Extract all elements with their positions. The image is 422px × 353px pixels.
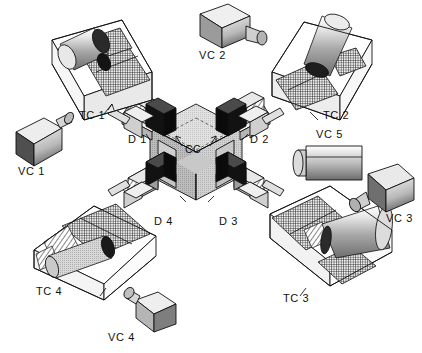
label-d-2: D 2: [250, 134, 269, 145]
diagram-canvas: TC 1 TC 2 TC 3 TC 4 D 1 D 2 D 3 D 4 CC V…: [0, 0, 422, 353]
label-tc-4: TC 4: [36, 286, 62, 297]
label-vc-2: VC 2: [199, 50, 226, 61]
label-d-1: D 1: [128, 134, 147, 145]
label-vc-4: VC 4: [108, 332, 135, 343]
label-d-4: D 4: [154, 216, 173, 227]
label-vc-1: VC 1: [18, 166, 45, 177]
target-chamber-2-shape: [272, 11, 372, 120]
label-tc-1: TC 1: [79, 110, 105, 121]
video-camera-5-shape: [293, 146, 362, 180]
label-tc-2: TC 2: [323, 110, 349, 121]
video-camera-1-shape: [16, 111, 75, 166]
label-cc: CC: [185, 144, 201, 155]
label-vc-5: VC 5: [316, 129, 343, 140]
label-d-3: D 3: [219, 216, 238, 227]
label-vc-3: VC 3: [386, 213, 413, 224]
video-camera-2-shape: [200, 4, 267, 48]
label-tc-3: TC 3: [283, 293, 309, 304]
video-camera-4-shape: [122, 286, 176, 332]
